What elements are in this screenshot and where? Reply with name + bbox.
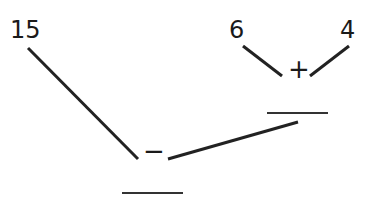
number-15: 15 [10,16,41,44]
number-4: 4 [340,16,355,44]
plus-operator: + [288,54,310,84]
tree-diagram: 15 6 4 + − [0,0,385,200]
branch-line-upper-result [168,122,298,159]
branch-line-6 [243,46,282,76]
branch-line-4 [310,46,349,76]
diagram-canvas: 15 6 4 + − [0,0,385,200]
minus-operator: − [143,136,165,166]
number-6: 6 [229,16,244,44]
branch-line-15 [28,48,138,159]
